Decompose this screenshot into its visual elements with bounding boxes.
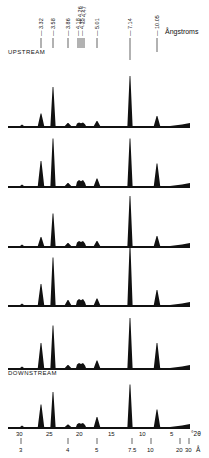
diffractogram-trace <box>8 76 190 128</box>
peak-label: — 10.05 <box>154 15 160 36</box>
peak-label: — 5.01 <box>94 18 100 36</box>
peak-label: — 3.58 <box>50 18 56 36</box>
diffractogram-trace <box>8 139 190 189</box>
x-axis: 30252015105°2θ3457.5102030Å <box>16 430 201 453</box>
tick-label-angstrom: 3 <box>19 447 23 453</box>
peak-label: — 3.86 <box>65 18 71 36</box>
tick-label-angstrom: 10 <box>147 447 154 453</box>
tick-label-angstrom: 7.5 <box>128 447 137 453</box>
tick-label-angstrom: 4 <box>66 447 70 453</box>
downstream-label: DOWNSTREAM <box>8 370 57 376</box>
peak-label: — 3.32 <box>38 18 44 36</box>
upstream-label: UPSTREAM <box>8 49 45 55</box>
tick-label-2theta: 10 <box>139 431 146 437</box>
tick-label-2theta: 30 <box>16 431 23 437</box>
diffractogram-trace <box>8 318 190 370</box>
diffractogram-trace <box>8 196 190 248</box>
tick-label-angstrom: 20 <box>176 447 183 453</box>
xrd-figure: — 3.32— 3.58— 3.86— 4.18— 4.26— 4.35— 4.… <box>0 0 209 458</box>
diffractogram-trace <box>8 245 190 307</box>
peak-label-ticks: — 3.32— 3.58— 3.86— 4.18— 4.26— 4.35— 4.… <box>38 6 160 60</box>
tick-label-2theta: 20 <box>76 431 83 437</box>
x-axis-unit-2theta: °2θ <box>191 430 201 437</box>
peak-label: — 7.14 <box>127 18 133 36</box>
angstroms-unit-label: Ångstroms <box>165 28 198 35</box>
tick-label-2theta: 5 <box>170 431 174 437</box>
tick-label-angstrom: 30 <box>185 447 192 453</box>
x-axis-unit-angstrom: Å <box>196 445 201 453</box>
tick-label-2theta: 25 <box>46 431 53 437</box>
tick-label-angstrom: 5 <box>95 447 99 453</box>
peak-label: — 4.47 <box>81 6 87 24</box>
diffractogram-trace <box>8 385 190 430</box>
tick-label-2theta: 15 <box>108 431 115 437</box>
